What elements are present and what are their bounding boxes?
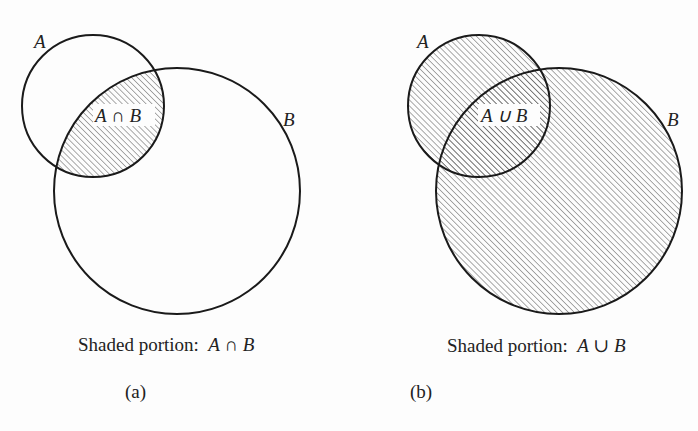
caption-math: A ∪ B	[577, 335, 625, 356]
caption-text: Shaded portion:	[78, 334, 199, 355]
panel-label-b: (b)	[410, 381, 432, 403]
venn-diagrams: A B A ∩ B A B A ∪ B	[0, 0, 698, 431]
set-a-label: A	[415, 31, 429, 52]
panel-label-a: (a)	[125, 381, 146, 403]
region-label: A ∪ B	[479, 105, 528, 126]
intersection-shading	[54, 68, 300, 314]
caption-a: Shaded portion: A ∩ B	[78, 334, 254, 356]
set-b-label: B	[283, 109, 295, 130]
caption-math: A ∩ B	[208, 334, 254, 355]
caption-text: Shaded portion:	[447, 335, 568, 356]
union-shading-b	[436, 68, 682, 314]
panel-a-diagram	[22, 35, 300, 314]
set-a-label: A	[32, 31, 46, 52]
region-label: A ∩ B	[93, 105, 141, 126]
set-b-label: B	[667, 109, 679, 130]
caption-b: Shaded portion: A ∪ B	[447, 334, 626, 357]
panel-b-diagram	[408, 35, 682, 314]
